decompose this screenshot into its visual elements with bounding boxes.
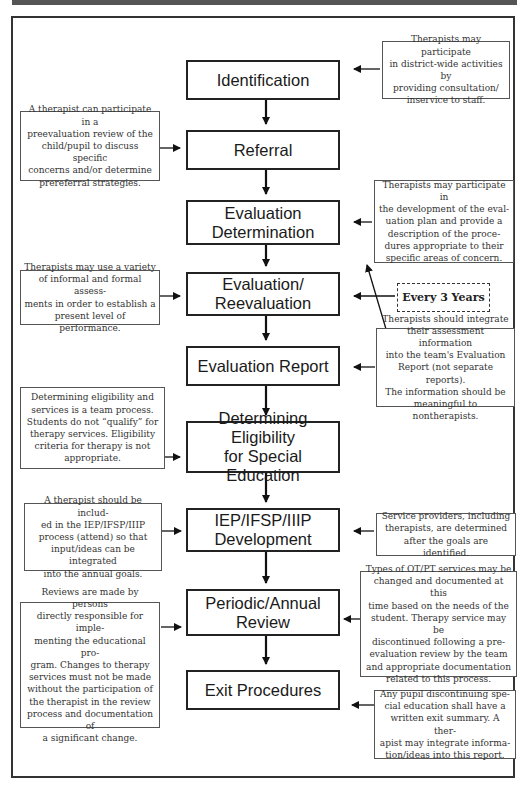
note-evaluation-determination: Therapists may participate in the develo…: [374, 180, 514, 263]
note-periodic-right: Types of OT/PT services may be changed a…: [360, 571, 517, 677]
step-iep-development: IEP/IFSP/IIIP Development: [186, 508, 340, 552]
note-exit: Any pupil discontinuing spe- cial educat…: [374, 690, 516, 759]
step-determining-eligibility: Determining Eligibility for Special Educ…: [186, 421, 340, 473]
note-periodic-left: Reviews are made by persons directly res…: [20, 602, 160, 728]
step-referral: Referral: [186, 130, 340, 170]
note-referral: A therapist can participate in a preeval…: [20, 111, 160, 181]
note-iep-left: A therapist should be includ- ed in the …: [24, 503, 162, 571]
step-identification: Identification: [186, 60, 340, 100]
step-evaluation-report: Evaluation Report: [186, 346, 340, 386]
note-evaluation-reevaluation: Therapists may use a variety of informal…: [20, 270, 160, 325]
note-identification: Therapists may participate in district-w…: [382, 41, 510, 99]
step-evaluation-reevaluation: Evaluation/ Reevaluation: [186, 272, 340, 316]
top-rule: [12, 0, 517, 5]
note-evaluation-report: Therapists should integrate their assess…: [376, 328, 515, 407]
step-periodic-review: Periodic/Annual Review: [186, 589, 340, 636]
every-3-years-label: Every 3 Years: [397, 283, 490, 312]
note-iep-right: Service providers, including therapists,…: [376, 513, 516, 556]
note-determining-eligibility: Determining eligibility and services is …: [20, 387, 165, 469]
step-evaluation-determination: Evaluation Determination: [186, 200, 340, 245]
step-exit-procedures: Exit Procedures: [186, 670, 340, 710]
